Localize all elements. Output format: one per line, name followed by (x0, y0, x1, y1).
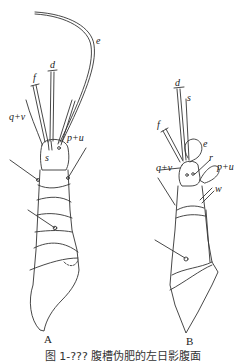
seta-label-r-b: r (209, 153, 213, 163)
panel-label-a: A (44, 334, 52, 345)
seta-label-s-a: s (45, 153, 49, 163)
seta-label-e-b: e (203, 139, 207, 149)
seta-label-f-a: f (33, 73, 36, 83)
seta-label-d-b: d (175, 78, 180, 88)
seta-label-qv-b: q+v (156, 163, 172, 173)
seta-label-w-b: w (215, 184, 222, 194)
seta-label-qv-a: q+v (9, 112, 25, 122)
seta-label-pu-a: p+u (67, 133, 84, 143)
seta-label-s-b: s (187, 93, 191, 103)
panel-b-drawing (155, 87, 219, 333)
panel-label-b: B (186, 336, 193, 347)
seta-label-e-a: e (96, 36, 100, 46)
figure-caption: 图 1-??? 腹槽伪肥的左日影腹面 (0, 351, 246, 363)
seta-label-pu-b: p+u (217, 162, 234, 172)
seta-label-d-a: d (50, 60, 55, 70)
seta-label-f-b: f (157, 120, 160, 130)
